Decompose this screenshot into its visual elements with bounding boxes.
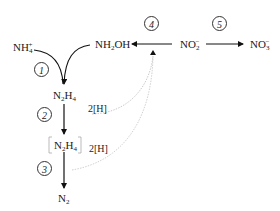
arrow-nh2oh-to-n2h4 [64,45,90,84]
step-2-badge: 2 [37,107,52,122]
step-4-badge: 4 [144,16,159,31]
step-1-badge: 1 [34,62,49,77]
species-hydrazine-intermediate: N2H4 [54,139,77,151]
bracket-right [78,137,81,153]
reducing-equivalent-lower: 2[H] [89,143,108,154]
species-ammonium: NH4+ [13,41,32,53]
arrow-electrons-to-step4 [150,50,156,55]
species-nitrate: NO3− [250,38,269,50]
electron-curve-lower [72,56,153,170]
species-nitrite: NO2− [180,38,199,50]
step-3-badge: 3 [37,161,52,176]
pathway-diagram [0,0,280,211]
bracket-left [49,137,52,153]
species-dinitrogen: N2 [58,192,69,204]
step-5-badge: 5 [212,16,227,31]
species-hydroxylamine: NH2OH [95,38,130,50]
species-hydrazine: N2H4 [53,89,76,101]
reducing-equivalent-upper: 2[H] [88,103,107,114]
